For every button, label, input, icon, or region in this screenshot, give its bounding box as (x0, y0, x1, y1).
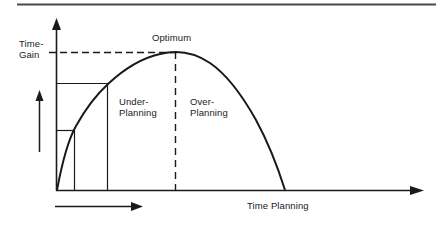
y-axis-label-line-1: Time- (19, 38, 43, 49)
over-planning-label-line-2: Planning (190, 107, 228, 118)
over-planning-label-line-1: Over- (190, 96, 214, 107)
under-planning-label-line-1: Under- (119, 96, 149, 107)
under-planning-label: Under-Planning (119, 96, 157, 118)
y-axis-label-line-2: Gain (19, 49, 39, 60)
y-axis-label: Time-Gain (19, 38, 43, 60)
over-planning-label: Over-Planning (190, 96, 228, 118)
under-planning-label-line-2: Planning (119, 107, 157, 118)
x-axis-label: Time Planning (247, 200, 309, 211)
optimum-label: Optimum (152, 32, 191, 43)
